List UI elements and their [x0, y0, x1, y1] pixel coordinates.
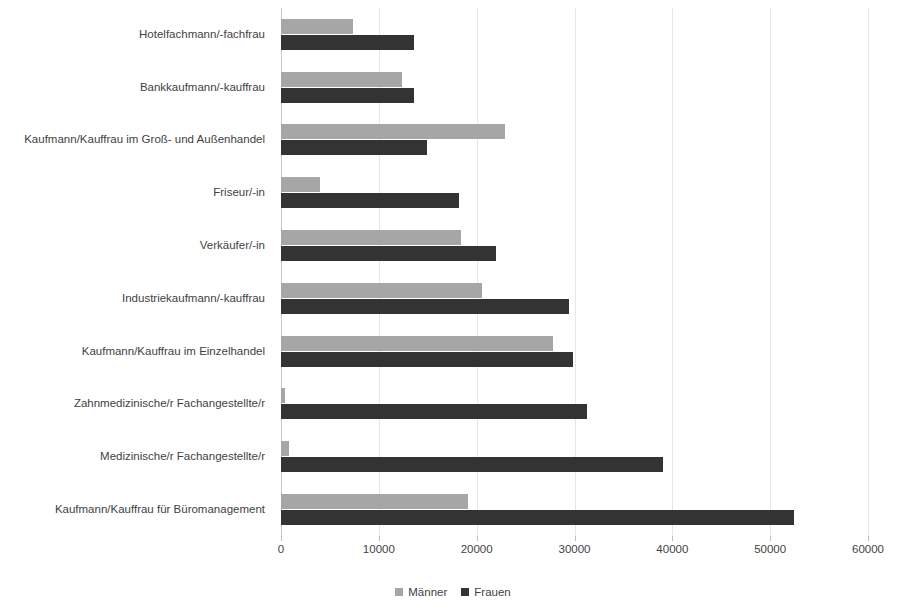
legend-item-maenner[interactable]: Männer — [395, 586, 447, 598]
x-tick-mark — [770, 536, 771, 541]
legend-label: Frauen — [474, 586, 510, 598]
category-label: Medizinische/r Fachangestellte/r — [0, 430, 265, 483]
bar-maenner[interactable] — [281, 388, 285, 403]
bar-slot — [281, 441, 868, 456]
bar-frauen[interactable] — [281, 510, 794, 525]
bar-frauen[interactable] — [281, 35, 414, 50]
legend-swatch-icon — [461, 588, 469, 596]
bar-frauen[interactable] — [281, 457, 663, 472]
bar-frauen[interactable] — [281, 88, 414, 103]
category-label: Friseur/-in — [0, 166, 265, 219]
bar-frauen[interactable] — [281, 246, 496, 261]
x-tick-mark — [868, 536, 869, 541]
bar-slot — [281, 193, 868, 208]
legend-label: Männer — [408, 586, 447, 598]
bar-slot — [281, 140, 868, 155]
bar-slot — [281, 283, 868, 298]
bar-chart: Hotelfachmann/-fachfrauBankkaufmann/-kau… — [0, 0, 906, 610]
bar-slot — [281, 19, 868, 34]
category-label: Bankkaufmann/-kauffrau — [0, 61, 265, 114]
bar-group — [281, 166, 868, 219]
x-tick-mark — [575, 536, 576, 541]
bar-group — [281, 272, 868, 325]
bar-slot — [281, 336, 868, 351]
bar-slot — [281, 177, 868, 192]
bar-frauen[interactable] — [281, 352, 573, 367]
bar-group — [281, 114, 868, 167]
x-tick-label: 10000 — [363, 543, 395, 555]
bar-group — [281, 219, 868, 272]
bar-frauen[interactable] — [281, 140, 427, 155]
bar-slot — [281, 230, 868, 245]
plot-area — [281, 8, 868, 536]
bar-group — [281, 483, 868, 536]
category-label: Zahnmedizinische/r Fachangestellte/r — [0, 378, 265, 431]
bar-rows — [281, 8, 868, 536]
bar-slot — [281, 510, 868, 525]
bar-slot — [281, 388, 868, 403]
bar-maenner[interactable] — [281, 19, 353, 34]
x-tick-label: 20000 — [461, 543, 493, 555]
bar-maenner[interactable] — [281, 283, 482, 298]
bar-slot — [281, 246, 868, 261]
bar-maenner[interactable] — [281, 124, 505, 139]
bar-maenner[interactable] — [281, 230, 461, 245]
x-tick-label: 50000 — [754, 543, 786, 555]
chart-legend: MännerFrauen — [0, 586, 906, 598]
x-tick-mark — [672, 536, 673, 541]
bar-group — [281, 325, 868, 378]
bar-group — [281, 378, 868, 431]
bar-slot — [281, 35, 868, 50]
bar-maenner[interactable] — [281, 494, 468, 509]
x-tick-label: 30000 — [559, 543, 591, 555]
category-label: Verkäufer/-in — [0, 219, 265, 272]
bar-frauen[interactable] — [281, 404, 587, 419]
x-tick-label: 0 — [278, 543, 284, 555]
bar-slot — [281, 457, 868, 472]
category-label: Industriekaufmann/-kauffrau — [0, 272, 265, 325]
bar-slot — [281, 494, 868, 509]
x-tick-label: 60000 — [852, 543, 884, 555]
bar-group — [281, 430, 868, 483]
bar-frauen[interactable] — [281, 193, 459, 208]
legend-swatch-icon — [395, 588, 403, 596]
x-tick-mark — [379, 536, 380, 541]
category-label: Kaufmann/Kauffrau für Büromanagement — [0, 483, 265, 536]
bar-frauen[interactable] — [281, 299, 569, 314]
y-axis-category-labels: Hotelfachmann/-fachfrauBankkaufmann/-kau… — [0, 8, 273, 536]
bar-group — [281, 8, 868, 61]
bar-slot — [281, 72, 868, 87]
bar-slot — [281, 352, 868, 367]
category-label: Hotelfachmann/-fachfrau — [0, 8, 265, 61]
x-tick-label: 40000 — [656, 543, 688, 555]
bar-maenner[interactable] — [281, 441, 289, 456]
bar-slot — [281, 404, 868, 419]
category-label: Kaufmann/Kauffrau im Einzelhandel — [0, 325, 265, 378]
bar-maenner[interactable] — [281, 72, 402, 87]
bar-slot — [281, 88, 868, 103]
x-axis: 0100002000030000400005000060000 — [281, 536, 868, 562]
bar-group — [281, 61, 868, 114]
bar-slot — [281, 124, 868, 139]
legend-item-frauen[interactable]: Frauen — [461, 586, 510, 598]
bar-maenner[interactable] — [281, 336, 553, 351]
gridline-60000 — [868, 8, 869, 536]
category-label: Kaufmann/Kauffrau im Groß- und Außenhand… — [0, 114, 265, 167]
bar-slot — [281, 299, 868, 314]
x-tick-mark — [281, 536, 282, 541]
bar-maenner[interactable] — [281, 177, 320, 192]
x-tick-mark — [477, 536, 478, 541]
